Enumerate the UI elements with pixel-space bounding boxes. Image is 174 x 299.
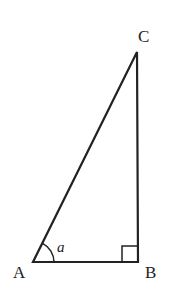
right-angle-marker [122, 246, 138, 262]
triangle-diagram: C A B a [0, 0, 174, 299]
vertex-label-b: B [145, 263, 156, 282]
triangle-abc [33, 52, 138, 262]
angle-arc-a [43, 243, 55, 262]
vertex-label-a: A [13, 263, 26, 282]
angle-label-a: a [57, 239, 65, 255]
vertex-label-c: C [138, 27, 149, 46]
